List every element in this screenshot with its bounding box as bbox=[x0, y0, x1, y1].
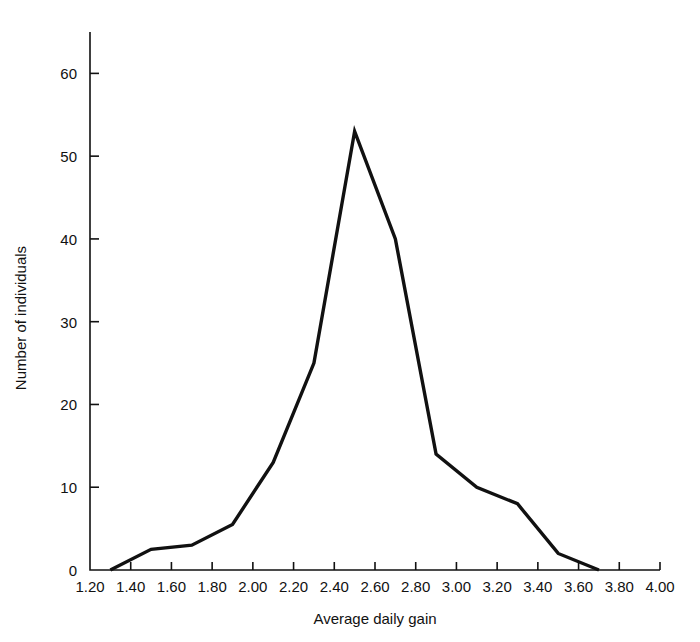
chart-plot-area: 1.201.401.601.802.002.202.402.602.803.00… bbox=[0, 0, 700, 642]
x-tick-label: 1.20 bbox=[75, 578, 104, 595]
x-tick-label: 3.40 bbox=[523, 578, 552, 595]
y-tick-label: 10 bbox=[60, 479, 77, 496]
x-tick-label: 3.80 bbox=[605, 578, 634, 595]
y-tick-label: 60 bbox=[60, 65, 77, 82]
x-tick-label: 2.00 bbox=[238, 578, 267, 595]
y-tick-label: 30 bbox=[60, 314, 77, 331]
x-tick-label: 2.20 bbox=[279, 578, 308, 595]
x-tick-label: 2.40 bbox=[320, 578, 349, 595]
y-tick-label: 40 bbox=[60, 231, 77, 248]
x-tick-label: 4.00 bbox=[645, 578, 674, 595]
x-axis-tick-labels: 1.201.401.601.802.002.202.402.602.803.00… bbox=[75, 578, 674, 595]
y-axis-title: Number of individuals bbox=[12, 246, 29, 390]
data-line-frequency-polygon bbox=[110, 131, 599, 570]
x-tick-label: 3.60 bbox=[564, 578, 593, 595]
y-axis-tick-marks bbox=[90, 73, 99, 487]
x-tick-label: 2.80 bbox=[401, 578, 430, 595]
x-tick-label: 1.60 bbox=[157, 578, 186, 595]
data-series-group bbox=[110, 131, 599, 570]
y-tick-label: 0 bbox=[69, 562, 77, 579]
x-tick-label: 3.00 bbox=[442, 578, 471, 595]
x-tick-label: 2.60 bbox=[360, 578, 389, 595]
x-tick-label: 1.40 bbox=[116, 578, 145, 595]
x-tick-label: 1.80 bbox=[198, 578, 227, 595]
y-tick-label: 50 bbox=[60, 148, 77, 165]
axis-lines bbox=[90, 32, 660, 570]
chart-figure: 1.201.401.601.802.002.202.402.602.803.00… bbox=[0, 0, 700, 642]
y-tick-label: 20 bbox=[60, 396, 77, 413]
x-axis-title: Average daily gain bbox=[313, 610, 436, 627]
y-axis-tick-labels: 0102030405060 bbox=[60, 65, 77, 579]
x-tick-label: 3.20 bbox=[483, 578, 512, 595]
axes-group bbox=[90, 32, 660, 570]
